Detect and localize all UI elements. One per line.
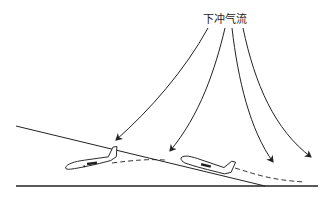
diagram-canvas	[0, 0, 329, 202]
downdraft-arrows	[116, 28, 311, 162]
downdraft-arrow-3	[232, 28, 273, 162]
downdraft-label: 下冲气流	[203, 10, 247, 26]
downdraft-diagram: 下冲气流	[0, 0, 329, 202]
downdraft-arrow-4	[243, 28, 311, 157]
glideslope-line	[16, 126, 265, 186]
aircraft-icon	[63, 147, 119, 170]
downdraft-arrow-1	[116, 28, 208, 140]
